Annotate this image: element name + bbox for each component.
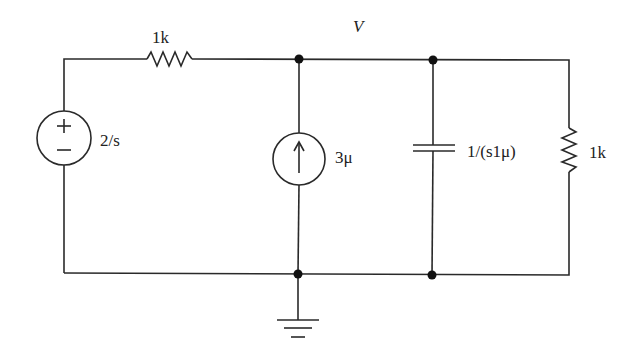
circuit-diagram: 1k 2/s 3μ 1/(s1μ) 1k V bbox=[0, 0, 634, 361]
capacitor-icon bbox=[413, 145, 455, 151]
node-voltage-label: V bbox=[353, 17, 366, 36]
wires bbox=[64, 59, 569, 320]
shunt-resistor-label: 1k bbox=[589, 143, 607, 162]
capacitor-label: 1/(s1μ) bbox=[467, 142, 516, 161]
series-resistor-icon bbox=[147, 52, 192, 66]
ground-icon bbox=[277, 320, 319, 337]
voltage-source-icon bbox=[37, 111, 91, 165]
junction-nodes bbox=[294, 55, 438, 280]
series-resistor-label: 1k bbox=[152, 28, 170, 47]
voltage-source-label: 2/s bbox=[100, 131, 120, 150]
current-source-label: 3μ bbox=[335, 148, 353, 167]
shunt-resistor-icon bbox=[562, 128, 576, 172]
current-source-icon bbox=[273, 133, 325, 185]
